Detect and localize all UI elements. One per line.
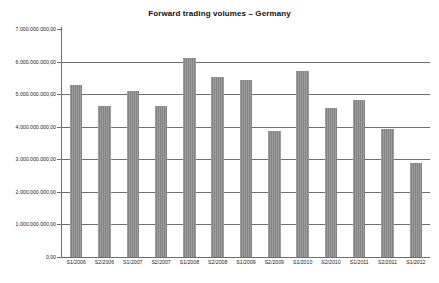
- y-axis-tick-label: 5.000.000.000,00: [4, 91, 56, 97]
- x-axis-tick-label: S1/2006: [62, 259, 90, 266]
- y-axis-tick-label: 4.000.000.000,00: [4, 124, 56, 130]
- y-axis-tick-label: 3.000.000.000,00: [4, 156, 56, 162]
- bar: [268, 131, 281, 257]
- bar: [325, 108, 338, 257]
- y-axis-labels: 0,001.000.000.000,002.000.000.000,003.00…: [0, 0, 56, 283]
- gridline: [62, 62, 430, 63]
- x-axis-tick-label: S1/2010: [288, 259, 316, 266]
- bar: [353, 100, 366, 257]
- x-axis-tick-label: S1/2011: [345, 259, 373, 266]
- bar: [155, 106, 168, 257]
- x-axis-tick-label: S1/2008: [175, 259, 203, 266]
- bar: [240, 80, 253, 257]
- bar: [296, 71, 309, 257]
- bar: [183, 58, 196, 257]
- x-axis-tick-label: S2/2008: [204, 259, 232, 266]
- x-axis-tick-label: S2/2010: [317, 259, 345, 266]
- x-axis-tick-label: S1/2009: [232, 259, 260, 266]
- x-axis-labels: S1/2006S2/2006S1/2007S2/2007S1/2008S2/20…: [62, 259, 430, 271]
- x-axis-line: [61, 257, 430, 258]
- x-axis-tick-label: S2/2009: [260, 259, 288, 266]
- bar: [410, 163, 423, 257]
- plot-area: [62, 29, 430, 257]
- bar: [211, 77, 224, 257]
- x-axis-tick-label: S2/2011: [373, 259, 401, 266]
- bar: [98, 106, 111, 257]
- bar: [127, 91, 140, 257]
- chart-title: Forward trading volumes – Germany: [0, 9, 439, 18]
- x-axis-tick-label: S2/2007: [147, 259, 175, 266]
- y-axis-tick-label: 2.000.000.000,00: [4, 189, 56, 195]
- bar-chart: Forward trading volumes – Germany 0,001.…: [0, 0, 439, 283]
- bar: [381, 129, 394, 257]
- y-axis-tick-label: 7.000.000.000,00: [4, 26, 56, 32]
- x-axis-tick-label: S1/2007: [119, 259, 147, 266]
- x-axis-tick-label: S1/2012: [402, 259, 430, 266]
- x-axis-tick-label: S2/2006: [90, 259, 118, 266]
- y-axis-tick-label: 0,00: [4, 254, 56, 260]
- bar: [70, 85, 83, 257]
- y-axis-tick-label: 6.000.000.000,00: [4, 59, 56, 65]
- y-axis-tick-label: 1.000.000.000,00: [4, 221, 56, 227]
